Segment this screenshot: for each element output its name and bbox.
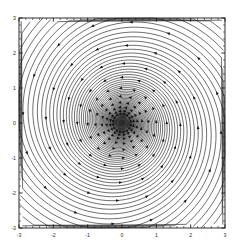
x-tick-label: 2 xyxy=(189,232,192,238)
x-tick-label: -1 xyxy=(85,232,90,238)
y-tick-label: -3 xyxy=(11,225,16,231)
plot-svg: -3-2-10123 -3-2-10123 xyxy=(0,0,241,248)
y-axis-tick-labels: -3-2-10123 xyxy=(11,15,16,231)
equilibrium-focus xyxy=(116,117,127,128)
y-tick-label: 1 xyxy=(13,85,16,91)
focus-blob-inner xyxy=(119,120,125,126)
x-tick-label: -3 xyxy=(17,232,22,238)
y-tick-label: 3 xyxy=(13,15,16,21)
y-tick-label: -1 xyxy=(11,155,16,161)
x-axis-tick-labels: -3-2-10123 xyxy=(17,232,227,238)
x-tick-label: -2 xyxy=(51,232,56,238)
y-tick-label: 0 xyxy=(13,120,16,126)
x-tick-label: 0 xyxy=(121,232,124,238)
x-tick-label: 3 xyxy=(224,232,227,238)
y-tick-label: -2 xyxy=(11,190,16,196)
x-tick-label: 1 xyxy=(155,232,158,238)
phase-portrait-figure: -3-2-10123 -3-2-10123 xyxy=(0,0,241,248)
y-tick-label: 2 xyxy=(13,50,16,56)
